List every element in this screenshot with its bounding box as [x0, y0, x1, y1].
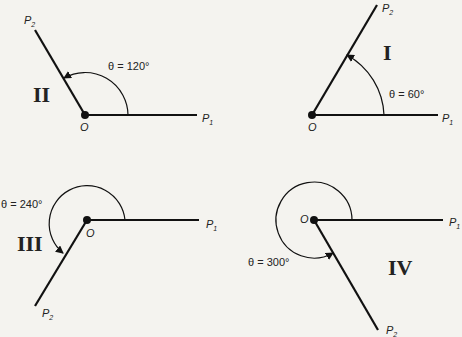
angle-quadrant-diagram: θ = 120° II O P1 P2 θ = 60° I O P1 P2 θ … [0, 0, 462, 337]
svg-text:P2: P2 [382, 2, 393, 16]
svg-text:P2: P2 [386, 324, 397, 337]
theta-label: θ = 240° [1, 198, 42, 210]
origin-label: O [80, 121, 89, 133]
origin-label: O [86, 227, 95, 239]
svg-text:P1: P1 [442, 112, 453, 126]
theta-label: θ = 300° [248, 256, 289, 268]
quadrant-label: I [383, 40, 392, 65]
panel-quadrant-i: θ = 60° I O P1 P2 [308, 2, 453, 133]
panel-quadrant-iv: θ = 300° IV O P1 P2 [248, 182, 460, 337]
origin-label: O [308, 121, 317, 133]
theta-label: θ = 60° [389, 88, 424, 100]
quadrant-label: II [33, 82, 50, 107]
svg-text:P1: P1 [206, 218, 217, 232]
svg-text:P1: P1 [202, 112, 213, 126]
quadrant-label: III [17, 231, 43, 256]
panel-quadrant-iii: θ = 240° III O P1 P2 [1, 186, 217, 321]
svg-text:P2: P2 [24, 14, 35, 28]
svg-text:P1: P1 [449, 216, 460, 230]
svg-text:P2: P2 [42, 307, 53, 321]
quadrant-label: IV [388, 255, 413, 280]
panel-quadrant-ii: θ = 120° II O P1 P2 [24, 14, 213, 133]
origin-label: O [300, 213, 309, 225]
theta-label: θ = 120° [108, 60, 149, 72]
